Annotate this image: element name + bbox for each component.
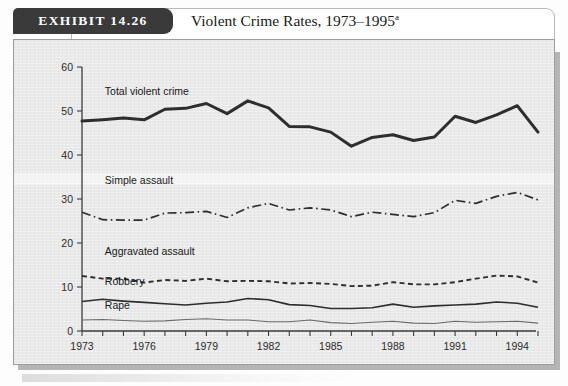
x-axis-tick-label: 1982 [257, 340, 281, 352]
x-axis-tick-label: 1985 [319, 340, 343, 352]
series-line-rape [82, 319, 538, 324]
series-line-robbery [82, 298, 538, 308]
x-axis-tick-label: 1991 [443, 340, 467, 352]
y-axis-tick-label: 40 [61, 149, 73, 161]
chart-panel: 0102030405060197319761979198219851988199… [13, 39, 555, 365]
exhibit-container: EXHIBIT 14.26 Violent Crime Rates, 1973–… [0, 0, 568, 386]
y-axis-tick-label: 10 [61, 281, 73, 293]
y-axis-tick-label: 0 [67, 325, 73, 337]
series-label-simple-assault: Simple assault [105, 174, 173, 186]
exhibit-title-superscript: a [395, 12, 399, 22]
plot-area: 0102030405060197319761979198219851988199… [14, 40, 555, 365]
x-axis-tick-label: 1994 [506, 340, 530, 352]
series-label-aggravated-assault: Aggravated assault [105, 245, 195, 257]
series-line-aggravated-assault [82, 276, 538, 287]
series-line-total-violent-crime [82, 101, 538, 146]
x-axis-tick-label: 1973 [70, 340, 94, 352]
series-label-total-violent-crime: Total violent crime [105, 85, 189, 97]
series-label-robbery: Robbery [105, 275, 145, 287]
series-layer [82, 101, 538, 324]
x-axis-tick-label: 1979 [195, 340, 219, 352]
x-axis-tick-label: 1976 [133, 340, 157, 352]
y-axis-tick-label: 60 [61, 61, 73, 73]
x-axis-tick-label: 1988 [381, 340, 405, 352]
exhibit-header: EXHIBIT 14.26 Violent Crime Rates, 1973–… [13, 8, 555, 40]
y-axis-tick-label: 20 [61, 237, 73, 249]
y-axis-tick-label: 30 [61, 193, 73, 205]
y-axis-tick-label: 50 [61, 105, 73, 117]
exhibit-title-text: Violent Crime Rates, 1973–1995 [191, 12, 395, 29]
line-chart: 0102030405060197319761979198219851988199… [14, 40, 555, 365]
series-line-simple-assault [82, 192, 538, 220]
exhibit-badge: EXHIBIT 14.26 [13, 8, 173, 34]
axes-layer: 0102030405060197319761979198219851988199… [61, 61, 538, 352]
page-title: Violent Crime Rates, 1973–1995a [191, 12, 399, 30]
series-label-rape: Rape [105, 299, 130, 311]
page-footer-artifact [22, 374, 352, 382]
